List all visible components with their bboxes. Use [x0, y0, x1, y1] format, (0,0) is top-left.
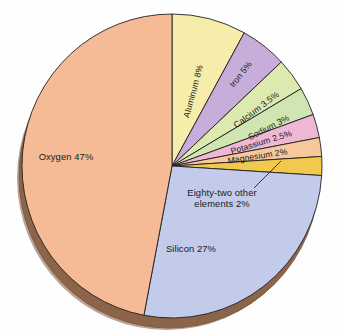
pie-label-silicon: Silicon 27%	[166, 243, 216, 254]
pie-slices-group	[22, 14, 322, 318]
pie-chart-figure: Aluminum 8%Iron 5%Calcium 3.5%Sodium 3%P…	[0, 0, 338, 333]
pie-chart-svg: Aluminum 8%Iron 5%Calcium 3.5%Sodium 3%P…	[0, 0, 338, 333]
pie-label-eighty-two-other-elements: Eighty-two otherelements 2%	[187, 187, 256, 209]
pie-label-eighty-two-other-elements-line1: Eighty-two other	[187, 187, 256, 198]
pie-slice-oxygen[interactable]	[22, 14, 172, 315]
pie-label-oxygen: Oxygen 47%	[39, 151, 94, 162]
pie-label-eighty-two-other-elements-line2: elements 2%	[194, 198, 249, 209]
